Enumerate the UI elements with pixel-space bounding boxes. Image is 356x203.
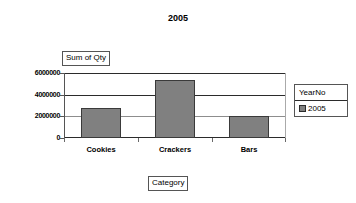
x-axis-label-group: Cookies Crackers Bars	[64, 145, 286, 157]
bar-slot-bars	[212, 73, 286, 138]
bar-cookies[interactable]	[81, 108, 121, 138]
bars-layer	[64, 73, 286, 138]
bar-crackers[interactable]	[155, 80, 195, 138]
x-axis-label-bars: Bars	[212, 145, 286, 154]
x-axis-label-crackers: Crackers	[138, 145, 212, 154]
y-axis-tick-label-6000000: 6000000	[8, 69, 60, 76]
y-axis-tick-label-4000000: 4000000	[8, 91, 60, 98]
y-axis-title-field-button[interactable]: Sum of Qty	[62, 51, 110, 66]
bar-slot-cookies	[64, 73, 138, 138]
y-axis-tick-label-2000000: 2000000	[8, 112, 60, 119]
legend-item-label-2005: 2005	[308, 103, 326, 114]
bar-slot-crackers	[138, 73, 212, 138]
x-axis-label-cookies: Cookies	[64, 145, 138, 154]
legend-item-2005[interactable]: 2005	[295, 101, 347, 116]
legend: YearNo 2005	[294, 84, 348, 117]
y-axis-tick-group: 6000000 4000000 2000000 0	[4, 73, 60, 138]
x-axis-tick-mark-2	[212, 138, 213, 142]
chart-title: 2005	[0, 13, 356, 23]
legend-title[interactable]: YearNo	[295, 85, 347, 101]
x-axis-title-field-button[interactable]: Category	[148, 176, 188, 191]
legend-swatch-2005-icon	[299, 105, 306, 112]
bar-bars[interactable]	[229, 116, 269, 138]
x-axis-tick-mark-right	[285, 138, 286, 142]
y-axis-tick-label-0: 0	[8, 134, 60, 141]
x-axis-tick-mark-1	[138, 138, 139, 142]
x-axis-tick-mark-left	[64, 138, 65, 142]
